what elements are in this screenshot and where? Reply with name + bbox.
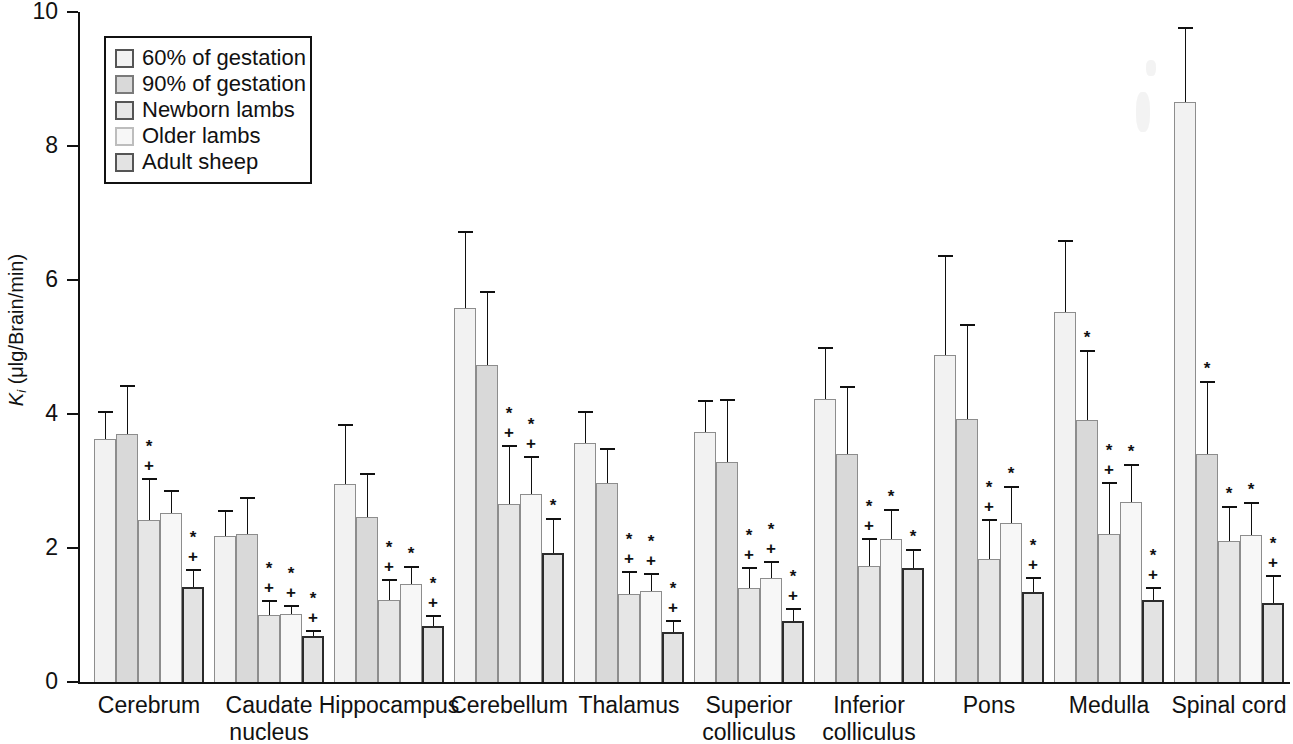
error-bar xyxy=(651,573,652,590)
bar xyxy=(236,534,258,682)
significance-star: * xyxy=(1022,538,1044,553)
significance-plus: + xyxy=(422,595,444,610)
significance-plus: + xyxy=(520,436,542,451)
bar-group: *+*+*+ xyxy=(574,12,684,682)
bar xyxy=(1196,454,1218,682)
bar xyxy=(836,454,858,682)
bar xyxy=(422,626,444,682)
scan-artifact xyxy=(1146,60,1156,76)
bar xyxy=(258,615,280,682)
legend-item: Older lambs xyxy=(115,123,301,149)
significance-star: * xyxy=(422,576,444,591)
significance-star: * xyxy=(1142,548,1164,563)
significance-star: * xyxy=(1000,466,1022,481)
significance-plus: + xyxy=(640,553,662,568)
y-axis-tick-label: 8 xyxy=(22,134,58,157)
error-bar xyxy=(1087,350,1088,420)
bar xyxy=(1142,600,1164,682)
error-bar-cap xyxy=(666,620,681,622)
legend-label: Adult sheep xyxy=(142,151,258,173)
bar xyxy=(182,587,204,682)
significance-plus: + xyxy=(978,499,1000,514)
category-label-line: nucleus xyxy=(184,719,354,744)
error-bar xyxy=(891,509,892,538)
error-bar xyxy=(247,497,248,534)
bar xyxy=(378,600,400,682)
y-axis-label-symbol: K xyxy=(5,393,27,406)
error-bar-cap xyxy=(1124,464,1139,466)
bar xyxy=(160,513,182,682)
significance-star: * xyxy=(1218,486,1240,501)
error-bar xyxy=(193,569,194,587)
significance-star: * xyxy=(182,530,204,545)
error-bar xyxy=(509,445,510,504)
significance-plus: + xyxy=(378,559,400,574)
bar xyxy=(280,614,302,682)
bar xyxy=(400,584,422,682)
error-bar-cap xyxy=(426,615,441,617)
error-bar xyxy=(825,347,826,399)
bar xyxy=(1218,541,1240,682)
bar xyxy=(694,432,716,682)
legend-item: Newborn lambs xyxy=(115,97,301,123)
error-bar xyxy=(367,473,368,517)
significance-plus: + xyxy=(618,551,640,566)
bar xyxy=(574,443,596,682)
significance-star: * xyxy=(258,561,280,576)
error-bar xyxy=(465,231,466,308)
bar xyxy=(1000,523,1022,682)
error-bar-cap xyxy=(698,400,713,402)
bar xyxy=(760,578,782,682)
y-axis-tick xyxy=(67,413,78,415)
error-bar xyxy=(749,567,750,588)
significance-star: * xyxy=(138,439,160,454)
significance-plus: + xyxy=(662,600,684,615)
error-bar xyxy=(269,600,270,615)
error-bar-cap xyxy=(884,509,899,511)
significance-plus: + xyxy=(302,610,324,625)
bar xyxy=(902,568,924,682)
bar-group: ****+ xyxy=(1174,12,1284,682)
error-bar-cap xyxy=(622,571,637,573)
error-bar-cap xyxy=(360,473,375,475)
error-bar-cap xyxy=(338,424,353,426)
bar xyxy=(542,553,564,682)
error-bar xyxy=(1185,27,1186,102)
y-axis-tick-label: 0 xyxy=(22,670,58,693)
error-bar xyxy=(913,549,914,568)
significance-star: * xyxy=(902,529,924,544)
error-bar-cap xyxy=(186,569,201,571)
significance-plus: + xyxy=(738,547,760,562)
legend-swatch xyxy=(115,153,134,172)
error-bar-cap xyxy=(742,567,757,569)
bar xyxy=(1054,312,1076,682)
significance-star: * xyxy=(1240,482,1262,497)
error-bar-cap xyxy=(1080,350,1095,352)
significance-plus: + xyxy=(1142,567,1164,582)
legend-item: Adult sheep xyxy=(115,149,301,175)
bar xyxy=(956,419,978,682)
error-bar-cap xyxy=(306,630,321,632)
significance-star: * xyxy=(498,406,520,421)
bar xyxy=(1098,534,1120,682)
significance-plus: + xyxy=(258,580,280,595)
bar-group: *+*+* xyxy=(454,12,564,682)
error-bar-cap xyxy=(1178,27,1193,29)
error-bar xyxy=(629,571,630,594)
error-bar-cap xyxy=(1102,482,1117,484)
error-bar xyxy=(1273,575,1274,603)
error-bar xyxy=(967,324,968,418)
significance-plus: + xyxy=(1098,462,1120,477)
significance-plus: + xyxy=(1022,557,1044,572)
error-bar xyxy=(1131,464,1132,503)
significance-star: * xyxy=(858,499,880,514)
bar xyxy=(858,566,880,682)
error-bar-cap xyxy=(1004,486,1019,488)
legend-label: Newborn lambs xyxy=(142,99,295,121)
bar-chart: 0246810 Ki (μlg/Brain/min) *+*+*+*+*+*+*… xyxy=(0,0,1293,744)
error-bar-cap xyxy=(1200,381,1215,383)
legend-swatch xyxy=(115,75,134,94)
significance-plus: + xyxy=(858,518,880,533)
error-bar-cap xyxy=(480,291,495,293)
significance-star: * xyxy=(1120,444,1142,459)
